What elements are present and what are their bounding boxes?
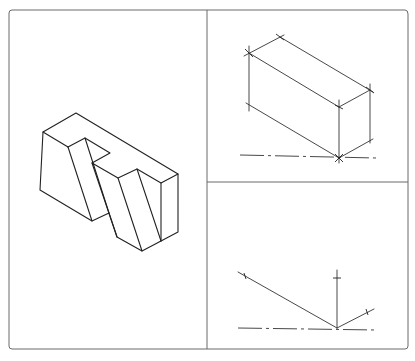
baseline xyxy=(240,155,376,158)
construction-box xyxy=(240,34,376,163)
technical-drawing xyxy=(0,0,415,361)
axis-left xyxy=(238,272,337,328)
drawing-sheet xyxy=(0,0,415,361)
panel-frame xyxy=(9,10,408,349)
construction-axes xyxy=(238,270,376,330)
isometric-object xyxy=(40,113,178,251)
axis-right xyxy=(337,309,374,328)
axes-baseline xyxy=(238,328,376,330)
